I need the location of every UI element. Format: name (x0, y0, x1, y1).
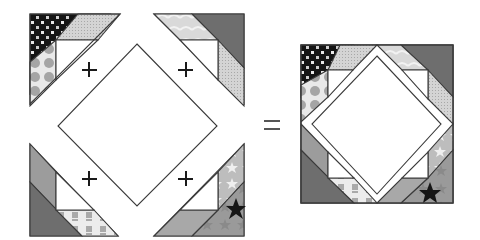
finished-block (301, 45, 453, 203)
center-square-on-point (58, 44, 217, 206)
equals-icon (264, 121, 280, 129)
plus-icon (82, 171, 97, 186)
plus-icon (178, 62, 193, 77)
plus-icon (178, 171, 193, 186)
fabric-white (56, 40, 98, 80)
quilt-assembly-diagram (0, 0, 480, 240)
plus-icon (82, 62, 97, 77)
